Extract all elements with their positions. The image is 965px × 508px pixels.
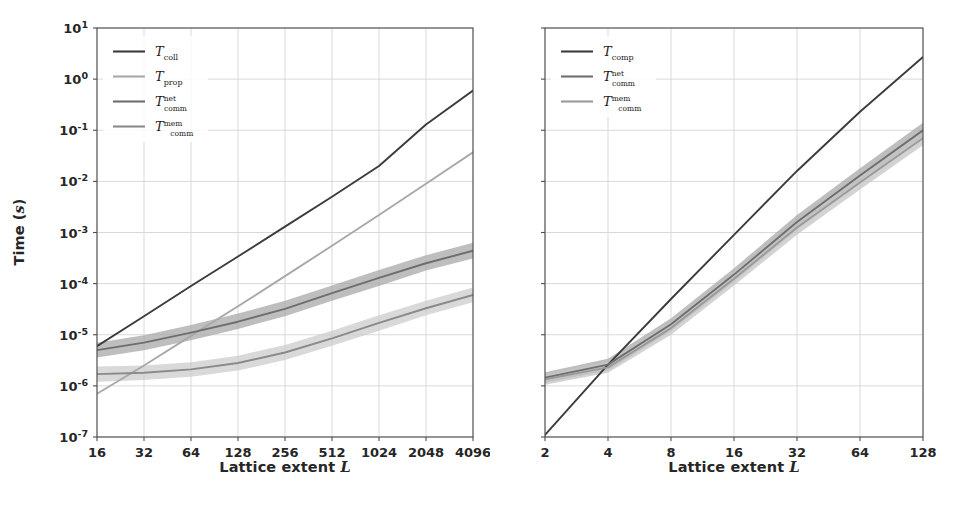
x-tick: 1024	[361, 445, 397, 460]
figure-canvas: 16326412825651210242048409610110010-110-…	[0, 0, 965, 508]
y-tick: 10-2	[59, 172, 88, 189]
y-tick: 10-7	[59, 428, 88, 445]
x-tick-labels: 248163264128	[540, 437, 936, 460]
x-tick: 2048	[408, 445, 444, 460]
right-plot-svg: 248163264128TcompTnetcommTmemcomm	[490, 0, 965, 508]
x-tick: 4096	[455, 445, 490, 460]
y-tick: 10-3	[59, 224, 88, 241]
y-tick: 101	[63, 19, 88, 36]
y-tick: 100	[63, 70, 88, 87]
y-tick: 10-1	[59, 121, 88, 138]
x-tick: 16	[88, 445, 106, 460]
x-tick: 64	[182, 445, 200, 460]
y-tick: 10-5	[59, 326, 88, 343]
left-y-axis-label: Time (s)	[10, 198, 27, 265]
left-plot-panel: 16326412825651210242048409610110010-110-…	[0, 0, 490, 508]
right-plot-panel: 248163264128TcompTnetcommTmemcomm	[490, 0, 965, 508]
y-tick-labels: 10110010-110-210-310-410-510-610-7	[59, 19, 97, 445]
x-tick: 128	[909, 445, 936, 460]
x-tick: 4	[603, 445, 612, 460]
y-tick: 10-6	[59, 377, 88, 394]
x-tick: 64	[851, 445, 869, 460]
x-tick: 32	[135, 445, 153, 460]
y-tick-labels	[541, 28, 545, 437]
y-tick: 10-4	[59, 275, 88, 292]
x-tick-labels: 163264128256512102420484096	[88, 437, 490, 460]
left-plot-svg: 16326412825651210242048409610110010-110-…	[0, 0, 490, 508]
left-x-axis-label: Lattice extent L	[219, 458, 350, 475]
x-tick: 2	[540, 445, 549, 460]
legend: TcollTpropTnetcommTmemcomm	[103, 36, 208, 142]
legend: TcompTnetcommTmemcomm	[551, 36, 656, 117]
right-x-axis-label: Lattice extent L	[668, 458, 799, 475]
